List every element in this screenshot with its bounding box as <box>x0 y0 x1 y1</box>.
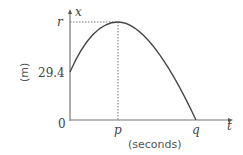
x-unit-label: (seconds) <box>128 138 182 151</box>
trajectory-curve <box>70 22 196 120</box>
x-q-label: q <box>192 123 200 137</box>
y-unit-label: (m) <box>18 63 31 82</box>
y-max-label: r <box>57 15 64 29</box>
y-axis-arrow-icon <box>68 9 72 14</box>
y-value-label: 29.4 <box>38 66 65 80</box>
displacement-time-chart: x r 29.4 (m) 0 p q t (seconds) <box>0 0 243 155</box>
y-axis-symbol: x <box>75 5 82 19</box>
x-p-label: p <box>114 123 122 137</box>
x-axis-symbol: t <box>227 119 232 133</box>
origin-label: 0 <box>58 117 66 131</box>
